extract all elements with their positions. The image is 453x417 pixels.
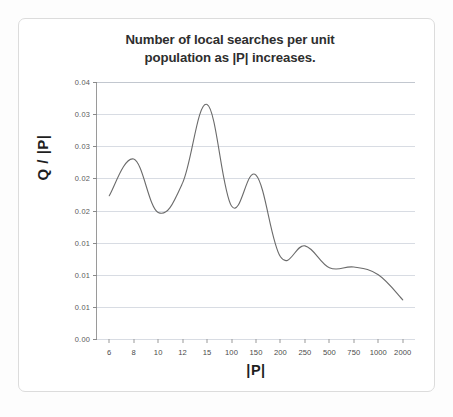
y-tick-label: 0.03 (75, 142, 90, 151)
x-tick-mark (402, 339, 403, 343)
x-tick-mark (109, 339, 110, 343)
x-tick-mark (378, 339, 379, 343)
x-tick-mark (353, 339, 354, 343)
data-curve (97, 82, 415, 339)
x-tick-label: 1000 (370, 348, 387, 357)
x-tick-label: 200 (274, 348, 287, 357)
y-tick-label: 0.01 (75, 302, 90, 311)
y-tick-label: 0.04 (75, 78, 90, 87)
plot-area: 0.040.030.030.020.020.010.010.010.00 681… (97, 82, 415, 339)
y-tick-label: 0.01 (75, 270, 90, 279)
y-axis-title: Q / |P| (34, 157, 51, 181)
x-tick-label: 250 (298, 348, 311, 357)
x-tick-mark (304, 339, 305, 343)
x-tick-mark (329, 339, 330, 343)
y-tick-label: 0.02 (75, 174, 90, 183)
x-tick-label: 12 (178, 348, 187, 357)
x-tick-mark (207, 339, 208, 343)
x-tick-mark (231, 339, 232, 343)
x-tick-mark (280, 339, 281, 343)
chart-title: Number of local searches per unit popula… (60, 31, 400, 67)
x-tick-mark (256, 339, 257, 343)
curve-path (109, 104, 403, 300)
x-tick-label: 15 (203, 348, 212, 357)
chart-title-line-2: population as |P| increases. (60, 49, 400, 67)
x-tick-label: 2000 (394, 348, 411, 357)
x-tick-label: 750 (347, 348, 360, 357)
x-axis-title: |P| (97, 362, 415, 378)
y-tick-label: 0.01 (75, 238, 90, 247)
x-tick-mark (158, 339, 159, 343)
x-tick-mark (133, 339, 134, 343)
x-tick-label: 6 (107, 348, 111, 357)
x-tick-label: 500 (323, 348, 336, 357)
x-tick-label: 150 (250, 348, 263, 357)
y-tick-label: 0.03 (75, 110, 90, 119)
chart-figure: Number of local searches per unit popula… (0, 0, 453, 417)
x-tick-label: 10 (154, 348, 163, 357)
x-tick-label: 100 (225, 348, 238, 357)
x-tick-label: 8 (132, 348, 136, 357)
y-tick-mark (93, 339, 97, 340)
y-tick-label: 0.02 (75, 206, 90, 215)
x-tick-mark (182, 339, 183, 343)
y-tick-label: 0.00 (75, 335, 90, 344)
chart-title-line-1: Number of local searches per unit (60, 31, 400, 49)
